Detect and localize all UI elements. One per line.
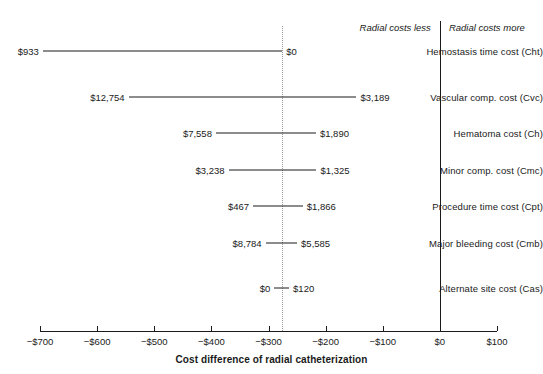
row-label-6: Alternate site cost (Cas) <box>403 283 543 294</box>
tornado-bar-5 <box>266 243 297 244</box>
row-label-2: Hematoma cost (Ch) <box>403 128 543 139</box>
tornado-bar-2 <box>216 133 316 134</box>
annotation-radial-costs-more: Radial costs more <box>449 22 525 33</box>
value-label-low-5: $8,784 <box>233 238 262 249</box>
x-axis-line <box>40 331 497 332</box>
x-tick-label-5: −$200 <box>312 336 339 347</box>
x-tick-label-4: −$300 <box>255 336 282 347</box>
tornado-bar-3 <box>229 170 317 171</box>
tornado-bar-0 <box>43 51 282 52</box>
x-tick-label-6: −$100 <box>369 336 396 347</box>
x-tick-2 <box>154 326 155 331</box>
x-tick-label-7: $0 <box>435 336 446 347</box>
value-label-high-4: $1,866 <box>307 201 336 212</box>
x-axis-title: Cost difference of radial catheterizatio… <box>0 354 543 366</box>
tornado-bar-1 <box>129 97 357 98</box>
tornado-bar-4 <box>253 206 303 207</box>
value-label-low-3: $3,238 <box>195 165 224 176</box>
x-tick-label-1: −$600 <box>84 336 111 347</box>
x-tick-label-8: $100 <box>486 336 507 347</box>
plot-area: Radial costs lessRadial costs moreHemost… <box>0 0 543 374</box>
x-tick-0 <box>40 326 41 331</box>
x-tick-label-3: −$400 <box>198 336 225 347</box>
value-label-high-3: $1,325 <box>320 165 349 176</box>
x-tick-8 <box>497 326 498 331</box>
x-tick-4 <box>269 326 270 331</box>
row-label-5: Major bleeding cost (Cmb) <box>403 238 543 249</box>
value-label-low-0: $933 <box>18 46 39 57</box>
value-label-high-1: $3,189 <box>360 92 389 103</box>
x-tick-7 <box>440 326 441 331</box>
value-label-low-6: $0 <box>260 283 271 294</box>
row-label-3: Minor comp. cost (Cmc) <box>403 165 543 176</box>
x-tick-5 <box>326 326 327 331</box>
value-label-high-5: $5,585 <box>301 238 330 249</box>
x-tick-6 <box>383 326 384 331</box>
x-tick-label-0: −$700 <box>27 336 54 347</box>
x-tick-3 <box>211 326 212 331</box>
x-tick-label-2: −$500 <box>141 336 168 347</box>
row-label-1: Vascular comp. cost (Cvc) <box>403 92 543 103</box>
annotation-radial-costs-less: Radial costs less <box>360 22 431 33</box>
row-label-0: Hemostasis time cost (Cht) <box>403 46 543 57</box>
tornado-chart: Radial costs lessRadial costs moreHemost… <box>0 0 543 374</box>
tornado-bar-6 <box>274 288 289 289</box>
value-label-high-0: $0 <box>286 46 297 57</box>
value-label-high-6: $120 <box>293 283 314 294</box>
value-label-low-4: $467 <box>228 201 249 212</box>
baseline-dotted-line <box>282 26 283 331</box>
value-label-low-2: $7,558 <box>183 128 212 139</box>
row-label-4: Procedure time cost (Cpt) <box>403 201 543 212</box>
value-label-low-1: $12,754 <box>90 92 124 103</box>
x-tick-1 <box>97 326 98 331</box>
value-label-high-2: $1,890 <box>320 128 349 139</box>
